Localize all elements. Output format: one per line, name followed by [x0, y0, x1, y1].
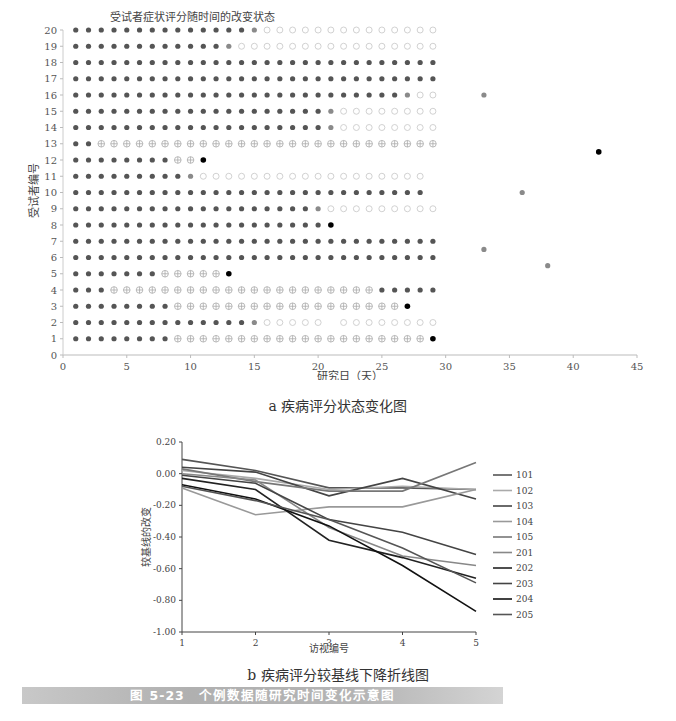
svg-text:202: 202	[516, 563, 533, 573]
figure-caption-bar: 图 5-23个例数据随研究时间变化示意图	[22, 687, 503, 704]
caption-b: b 疾病评分较基线下降折线图	[0, 664, 676, 684]
legend-item-201: 201	[493, 548, 533, 558]
legend-item-103: 103	[493, 501, 533, 511]
chart-b-legend: 101102103104105201202203204205	[493, 470, 533, 620]
svg-text:203: 203	[516, 579, 533, 589]
svg-text:103: 103	[516, 501, 533, 511]
svg-text:104: 104	[516, 517, 533, 527]
svg-text:-0.80: -0.80	[153, 595, 176, 605]
svg-text:-0.60: -0.60	[153, 564, 176, 574]
svg-text:204: 204	[516, 594, 533, 604]
chart-b-xlabel: 访视编号	[309, 642, 349, 654]
series-line-104	[182, 488, 476, 515]
svg-text:4: 4	[400, 638, 406, 648]
legend-item-203: 203	[493, 579, 533, 589]
svg-text:2: 2	[253, 638, 259, 648]
figure-title: 个例数据随研究时间变化示意图	[199, 688, 395, 703]
svg-text:5: 5	[473, 638, 479, 648]
legend-item-101: 101	[493, 470, 533, 480]
svg-text:-0.40: -0.40	[153, 532, 176, 542]
svg-text:205: 205	[516, 610, 533, 620]
chart-b-line: 0.200.00-0.20-0.40-0.60-0.80-1.0012345 1…	[0, 0, 676, 680]
svg-text:105: 105	[516, 532, 533, 542]
chart-b-ylabel: 较基线的改变	[140, 507, 152, 567]
svg-text:1: 1	[179, 638, 185, 648]
svg-text:102: 102	[516, 486, 533, 496]
legend-item-102: 102	[493, 486, 533, 496]
legend-item-202: 202	[493, 563, 533, 573]
svg-text:0.00: 0.00	[156, 469, 176, 479]
chart-b-lines	[182, 459, 476, 611]
svg-text:0.20: 0.20	[156, 437, 176, 447]
svg-text:-1.00: -1.00	[153, 627, 176, 637]
legend-item-105: 105	[493, 532, 533, 542]
figure-number: 图 5-23	[130, 688, 185, 703]
series-line-205	[182, 486, 476, 583]
legend-item-205: 205	[493, 610, 533, 620]
legend-item-104: 104	[493, 517, 533, 527]
legend-item-204: 204	[493, 594, 533, 604]
svg-text:101: 101	[516, 470, 533, 480]
svg-text:201: 201	[516, 548, 533, 558]
svg-text:-0.20: -0.20	[153, 500, 176, 510]
